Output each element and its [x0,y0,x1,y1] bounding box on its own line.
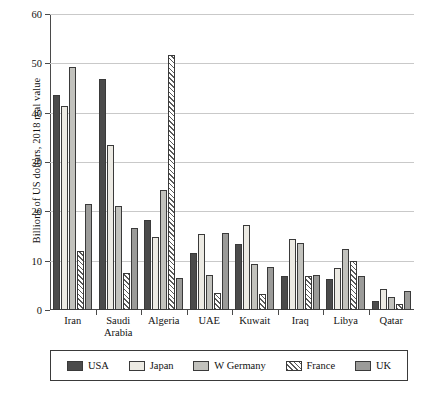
bar-france-saudi-arabia [123,273,130,310]
x-axis-category-label: SaudiArabia [96,315,142,338]
grouped-bar-chart: Billions of US dollars, 2018 real value … [0,0,424,393]
legend-label: UK [376,360,391,371]
bar-w-germany-libya [342,249,349,310]
y-axis-tick-label: 0 [37,305,42,316]
bar-japan-qatar [380,289,387,310]
x-axis-category-label-line: Libya [323,315,369,327]
chart-legend: USAJapanW GermanyFranceUK [50,350,408,381]
plot-area: 0102030405060 [50,14,414,310]
legend-item-japan[interactable]: Japan [129,360,174,371]
france-swatch [286,361,302,371]
bar-group [369,14,415,310]
bar-group [187,14,233,310]
bar-japan-saudi-arabia [107,145,114,310]
x-axis-category-label: Algeria [141,315,187,327]
y-axis-tick-label: 10 [32,255,43,266]
bar-usa-libya [326,279,333,310]
y-axis-tick-label: 50 [32,58,43,69]
bar-usa-iraq [281,276,288,310]
bar-usa-algeria [144,220,151,310]
legend-item-france[interactable]: France [286,360,336,371]
y-axis-tick [45,310,50,311]
y-axis-tick-label: 60 [32,9,43,20]
bar-france-algeria [168,55,175,310]
bar-w-germany-iraq [297,243,304,310]
bar-france-iraq [305,276,312,310]
bar-france-libya [350,261,357,310]
bar-uk-algeria [176,278,183,310]
bar-group [323,14,369,310]
bar-uk-saudi-arabia [131,228,138,310]
legend-label: France [307,360,336,371]
bar-w-germany-iran [69,67,76,310]
bar-france-iran [77,251,84,310]
uk-swatch [355,361,371,371]
bar-usa-kuwait [235,244,242,310]
bar-group [96,14,142,310]
bar-w-germany-qatar [388,297,395,310]
y-axis-tick-label: 30 [32,157,43,168]
usa-swatch [67,361,83,371]
y-axis-tick-label: 40 [32,107,43,118]
japan-swatch [129,361,145,371]
legend-item-usa[interactable]: USA [67,360,109,371]
bar-japan-iraq [289,239,296,310]
w-germany-swatch [193,361,209,371]
legend-label: Japan [150,360,174,371]
y-axis-tick-label: 20 [32,206,43,217]
x-axis-category-label: Iran [50,315,96,327]
x-axis-category-label: Libya [323,315,369,327]
bar-group [141,14,187,310]
bar-group [50,14,96,310]
bar-uk-libya [358,276,365,310]
bar-uk-iran [85,204,92,310]
bar-uk-iraq [313,275,320,310]
bar-w-germany-uae [206,275,213,310]
x-axis-category-label: Qatar [369,315,415,327]
bar-japan-algeria [152,237,159,310]
bar-usa-saudi-arabia [99,79,106,310]
bar-france-kuwait [259,294,266,310]
bar-w-germany-kuwait [251,264,258,310]
x-axis-category-label-line: Qatar [369,315,415,327]
x-axis-category-label-line: UAE [187,315,233,327]
bar-uk-kuwait [267,267,274,310]
bar-w-germany-saudi-arabia [115,206,122,310]
bar-uk-qatar [404,291,411,310]
x-axis-category-label-line: Saudi [96,315,142,327]
legend-label: USA [88,360,109,371]
bar-usa-iran [53,95,60,310]
bar-japan-kuwait [243,225,250,310]
legend-label: W Germany [214,360,265,371]
bar-japan-uae [198,234,205,310]
bar-group [278,14,324,310]
bar-group [232,14,278,310]
x-axis-category-label-line: Iran [50,315,96,327]
legend-item-uk[interactable]: UK [355,360,391,371]
bar-usa-qatar [372,301,379,310]
bar-japan-libya [334,268,341,310]
x-axis-category-label-line: Algeria [141,315,187,327]
legend-item-w-germany[interactable]: W Germany [193,360,265,371]
x-axis-category-label: Iraq [278,315,324,327]
x-axis-category-label: UAE [187,315,233,327]
x-axis-category-label-line: Iraq [278,315,324,327]
bar-france-qatar [396,304,403,310]
bar-france-uae [214,293,221,310]
bar-uk-uae [222,233,229,310]
x-axis-category-label-line: Kuwait [232,315,278,327]
x-axis-category-label-line: Arabia [96,327,142,339]
bar-w-germany-algeria [160,190,167,310]
bar-japan-iran [61,106,68,310]
bar-usa-uae [190,253,197,310]
x-axis-category-label: Kuwait [232,315,278,327]
